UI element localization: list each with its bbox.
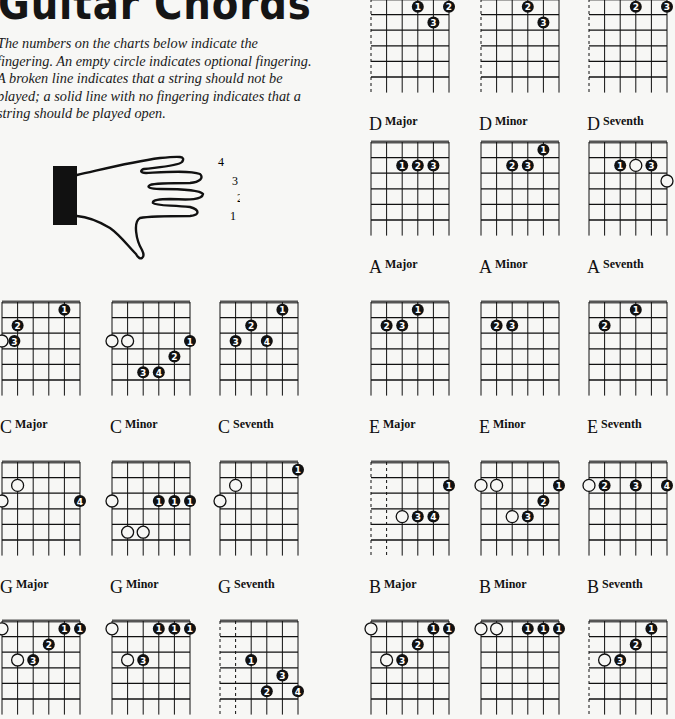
finger-number: 1 [61,305,67,315]
finger-number: 3 [399,321,405,331]
chord-chart-d-major: 123 [363,0,457,101]
finger-number: 1 [525,624,531,634]
finger-number: 1 [248,656,254,666]
finger-number: 3 [664,2,670,12]
chord-quality: Minor [495,257,528,271]
chord-label-b-major: BMajor [369,577,417,598]
chord-label-g-seventh: GSeventh [218,577,275,598]
finger-number: 2 [509,161,515,171]
chord-root: B [479,577,491,597]
optional-finger-circle-icon [0,335,8,347]
chord-chart-a-major: 123 [363,134,457,244]
optional-finger-circle-icon [122,526,134,538]
chord-label-a-minor: AMinor [479,257,528,278]
chord-label-e-major: EMajor [369,417,416,438]
chord-chart-a-seventh: 13 [581,134,675,244]
chord-root: B [587,577,599,597]
chord-root: G [110,577,123,597]
finger-number: 1 [399,161,405,171]
finger-number: 2 [446,2,452,12]
optional-finger-circle-icon [661,175,673,187]
finger-number: 4 [264,337,270,347]
chord-chart-c-minor: 1234 [104,294,198,404]
optional-finger-circle-icon [0,623,8,635]
finger-number: 3 [509,321,515,331]
chord-root: A [479,257,492,277]
chord-label-e-seventh: ESeventh [587,417,642,438]
chord-chart-g-minor: 111 [104,454,198,564]
chord-chart-e-seventh: 12 [581,294,675,404]
optional-finger-circle-icon [12,654,24,666]
finger-number: 3 [11,337,17,347]
finger-number: 2 [540,497,546,507]
finger-number: 1 [279,305,285,315]
chord-quality: Seventh [602,577,643,591]
optional-finger-circle-icon [106,623,118,635]
chord-label-d-major: DMajor [369,114,418,135]
finger-number: 1 [171,497,177,507]
chord-label-a-seventh: ASeventh [587,257,644,278]
chord-root: D [479,114,492,134]
chord-label-g-major: GMajor [0,577,49,598]
hand-fingering-diagram: 4 3 2 1 [40,150,240,274]
finger-number: 1 [77,624,83,634]
finger-number: 1 [295,465,301,475]
finger-number: 3 [617,656,623,666]
chord-quality: Minor [494,577,527,591]
chord-root: B [369,577,381,597]
optional-finger-circle-icon [381,654,393,666]
chord-root: C [0,417,12,437]
finger-number: 2 [525,2,531,12]
optional-finger-circle-icon [365,623,377,635]
optional-finger-circle-icon [12,479,24,491]
chord-root: E [587,417,598,437]
chord-chart-g-seventh: 1 [212,454,306,564]
chord-chart-b-seventh: 234 [581,454,675,564]
chord-label-d-minor: DMinor [479,114,528,135]
optional-finger-circle-icon [137,526,149,538]
finger-number: 1 [187,497,193,507]
chord-quality: Seventh [603,257,644,271]
finger-number: 3 [430,18,436,28]
chord-label-d-seventh: DSeventh [587,114,644,135]
finger-number: 1 [187,337,193,347]
chord-chart-b-major: 134 [363,454,457,564]
finger-number: 2 [14,321,20,331]
finger-number: 4 [156,368,162,378]
chord-chart-f-minor: 1113 [104,613,198,719]
intro-line: The numbers on the charts below indicate… [0,35,317,53]
chord-quality: Minor [125,417,158,431]
chord-chart-f-major: 1123 [0,613,88,719]
finger-label-4: 4 [218,155,224,169]
finger-number: 2 [264,687,270,697]
finger-number: 2 [415,161,421,171]
chord-quality: Minor [495,114,528,128]
finger-label-2: 2 [237,191,240,205]
chord-quality: Minor [493,417,526,431]
chord-root: D [587,114,600,134]
finger-number: 2 [601,321,607,331]
intro-line: fingering. An empty circle indicates opt… [0,53,317,71]
finger-number: 1 [171,624,177,634]
finger-number: 2 [633,640,639,650]
chord-root: E [369,417,380,437]
chord-label-b-minor: BMinor [479,577,527,598]
finger-number: 2 [248,321,254,331]
finger-number: 3 [648,161,654,171]
finger-number: 3 [540,18,546,28]
finger-number: 1 [648,624,654,634]
chord-quality: Major [16,577,49,591]
finger-label-3: 3 [232,174,238,188]
hand-icon: 4 3 2 1 [40,150,240,270]
chord-root: C [218,417,230,437]
chord-label-e-minor: EMinor [479,417,526,438]
finger-number: 3 [279,671,285,681]
finger-number: 2 [171,352,177,362]
finger-number: 1 [187,624,193,634]
finger-number: 1 [556,624,562,634]
finger-number: 4 [77,497,83,507]
finger-number: 3 [525,512,531,522]
finger-number: 3 [140,656,146,666]
chord-label-a-major: AMajor [369,257,418,278]
optional-finger-circle-icon [214,495,226,507]
